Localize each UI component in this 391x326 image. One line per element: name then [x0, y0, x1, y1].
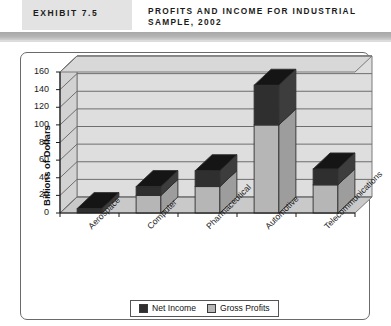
legend-item: Net Income: [139, 303, 196, 313]
legend-label: Gross Profits: [220, 303, 270, 313]
exhibit-title: PROFITS AND INCOME FOR INDUSTRIAL SAMPLE…: [148, 6, 386, 28]
legend-swatch-icon: [207, 304, 216, 313]
exhibit-number-label: EXHIBIT 7.5: [33, 8, 98, 18]
header-rule-shadow: [0, 40, 391, 42]
chart-legend: Net IncomeGross Profits: [130, 300, 279, 317]
header-rule-bar: [0, 32, 391, 40]
legend-label: Net Income: [152, 303, 196, 313]
legend-swatch-icon: [139, 304, 148, 313]
chart-frame: [20, 52, 370, 320]
y-axis-title: Billions of Dollars: [41, 111, 52, 221]
exhibit-header: EXHIBIT 7.5 PROFITS AND INCOME FOR INDUS…: [0, 0, 391, 46]
legend-item: Gross Profits: [207, 303, 270, 313]
